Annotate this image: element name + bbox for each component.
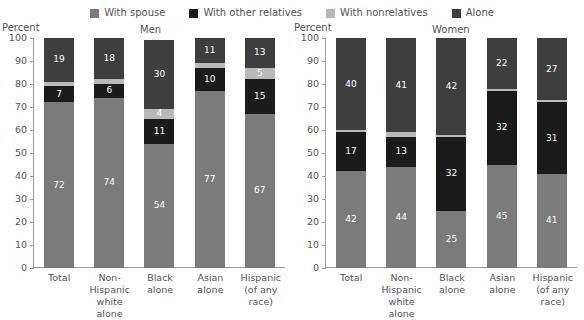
y-tick-label-men: 50 <box>15 148 27 158</box>
x-axis-label-line: alone <box>427 284 477 296</box>
bar-segment[interactable]: 45 <box>487 165 517 269</box>
y-tick-label-men: 60 <box>15 125 27 135</box>
bar-segment[interactable]: 17 <box>336 132 366 171</box>
legend-item-with_other_relatives[interactable]: With other relatives <box>189 8 302 18</box>
y-tick-men <box>30 268 34 269</box>
x-axis-label-line: alone <box>185 284 235 296</box>
stacked-bar[interactable]: 223245 <box>487 38 517 268</box>
bar-segment[interactable]: 32 <box>436 137 466 211</box>
bar-segment[interactable]: 42 <box>336 171 366 268</box>
bar-segment-label: 54 <box>154 201 165 210</box>
stacked-bar[interactable]: 1351567 <box>245 38 275 268</box>
plot-area-women: 0102030405060708090100 40174241134442322… <box>325 38 577 268</box>
bar-group-women: 401742411344423225223245273141 <box>326 38 577 268</box>
x-axis-label-line: Black <box>135 272 185 284</box>
bar-segment[interactable]: 5 <box>245 68 275 80</box>
bar-segment-label: 41 <box>396 81 407 90</box>
bar-segment-label: 7 <box>56 90 62 99</box>
x-axis-label-line: Black <box>427 272 477 284</box>
bar-segment-label: 45 <box>496 212 507 221</box>
y-tick-label-women: 70 <box>307 102 319 112</box>
bar-segment[interactable]: 31 <box>537 102 567 173</box>
stacked-bar[interactable]: 111077 <box>195 38 225 268</box>
bar-segment[interactable]: 74 <box>94 98 124 268</box>
y-tick-label-men: 100 <box>9 33 27 43</box>
bar-segment-label: 22 <box>496 59 507 68</box>
x-axis-label-men: Total <box>34 272 84 284</box>
bar-segment[interactable]: 15 <box>245 79 275 114</box>
x-axis-label-line: alone <box>477 284 527 296</box>
stacked-bar[interactable]: 411344 <box>386 38 416 268</box>
bar-segment[interactable]: 10 <box>195 68 225 91</box>
bar-segment[interactable]: 72 <box>44 102 74 268</box>
bar-segment[interactable]: 7 <box>44 86 74 102</box>
y-tick-label-women: 80 <box>307 79 319 89</box>
bar-segment[interactable]: 19 <box>44 38 74 82</box>
stacked-bar[interactable]: 401742 <box>336 38 366 268</box>
legend-item-with_nonrelatives[interactable]: With nonrelatives <box>326 8 428 18</box>
bar-segment[interactable]: 41 <box>537 174 567 268</box>
stacked-bar[interactable]: 18674 <box>94 38 124 268</box>
x-axis-label-line: (of any race) <box>528 284 578 308</box>
bar-segment[interactable]: 25 <box>436 211 466 269</box>
bar-segment-label: 19 <box>53 55 64 64</box>
legend-item-with_spouse[interactable]: With spouse <box>90 8 165 18</box>
bar-segment-label: 31 <box>546 134 557 143</box>
bar-segment[interactable]: 41 <box>386 38 416 132</box>
bar-segment[interactable]: 22 <box>487 38 517 89</box>
legend-item-label: With spouse <box>104 8 165 18</box>
x-axis-label-men: Hispanic(of any race) <box>236 272 286 308</box>
bar-segment-label: 41 <box>546 216 557 225</box>
bar-segment-label: 77 <box>204 175 215 184</box>
y-tick-label-men: 0 <box>21 263 27 273</box>
stacked-bar[interactable]: 19772 <box>44 38 74 268</box>
bar-segment[interactable]: 32 <box>487 91 517 165</box>
bar-segment-label: 42 <box>345 215 356 224</box>
x-axis-label-men: Blackalone <box>135 272 185 296</box>
bar-segment[interactable]: 4 <box>144 109 174 118</box>
x-axis-label-men: Non-Hispanicwhite alone <box>84 272 134 320</box>
bar-segment-label: 72 <box>53 181 64 190</box>
bar-segment[interactable]: 54 <box>144 144 174 268</box>
stacked-bar[interactable]: 273141 <box>537 38 567 268</box>
stacked-bar[interactable]: 423225 <box>436 38 466 268</box>
bar-segment[interactable]: 13 <box>386 137 416 167</box>
legend-item-alone[interactable]: Alone <box>452 8 494 18</box>
bar-segment[interactable]: 77 <box>195 91 225 268</box>
y-tick-label-women: 0 <box>313 263 319 273</box>
bar-segment[interactable]: 42 <box>436 38 466 135</box>
x-axis-label-men: Asianalone <box>185 272 235 296</box>
bar-segment-label: 27 <box>546 65 557 74</box>
bar-segment-label: 67 <box>254 186 265 195</box>
y-tick-label-men: 90 <box>15 56 27 66</box>
x-axis-label-line: Non-Hispanic <box>376 272 426 296</box>
bar-segment[interactable]: 67 <box>245 114 275 268</box>
y-tick-label-women: 100 <box>301 33 319 43</box>
bar-segment-label: 25 <box>446 235 457 244</box>
bar-segment[interactable]: 44 <box>386 167 416 268</box>
bar-segment[interactable]: 40 <box>336 38 366 130</box>
bar-segment[interactable]: 27 <box>537 38 567 100</box>
legend-swatch-icon <box>189 9 198 18</box>
bar-segment[interactable]: 11 <box>144 119 174 144</box>
bar-segment-label: 30 <box>154 70 165 79</box>
panel-women: Percent Women 0102030405060708090100 401… <box>292 22 584 316</box>
panel-title-women: Women <box>432 24 470 35</box>
x-axis-label-women: Non-Hispanicwhite alone <box>376 272 426 320</box>
x-axis-label-line: alone <box>135 284 185 296</box>
bar-segment-label: 32 <box>446 169 457 178</box>
bar-segment[interactable]: 11 <box>195 38 225 63</box>
bar-segment-label: 5 <box>257 69 263 78</box>
bar-segment[interactable]: 13 <box>245 38 275 68</box>
bar-segment-label: 44 <box>396 213 407 222</box>
x-axis-label-women: Blackalone <box>427 272 477 296</box>
stacked-bar[interactable]: 3041154 <box>144 38 174 268</box>
bar-segment-label: 4 <box>157 109 163 118</box>
y-tick-label-men: 10 <box>15 240 27 250</box>
bar-segment[interactable]: 18 <box>94 38 124 79</box>
bar-segment-label: 13 <box>254 48 265 57</box>
bar-segment[interactable]: 6 <box>94 84 124 98</box>
x-axis-label-line: white alone <box>376 296 426 320</box>
bar-segment[interactable]: 30 <box>144 40 174 109</box>
bar-segment-label: 11 <box>204 46 215 55</box>
